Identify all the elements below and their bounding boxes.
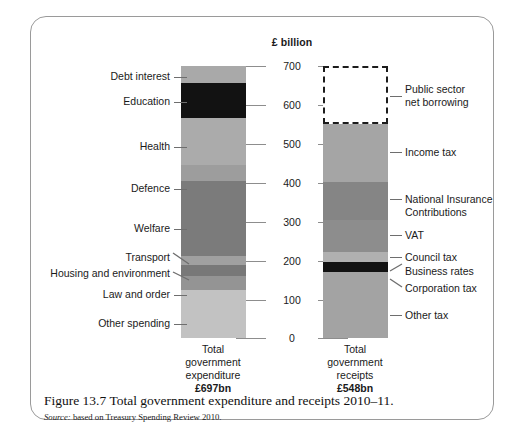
leader-health bbox=[174, 147, 187, 148]
leader-national-insurance-contributions bbox=[390, 199, 402, 200]
segment-vat[interactable] bbox=[323, 220, 388, 252]
leader-other-tax bbox=[390, 315, 402, 316]
label-line-1: National Insurance bbox=[405, 193, 493, 206]
footer-line-1: Total bbox=[153, 343, 273, 356]
segment-law-and-order[interactable] bbox=[181, 276, 246, 290]
leader-law-and-order bbox=[174, 295, 187, 296]
footer-line-3: expenditure bbox=[153, 369, 273, 382]
segment-council-tax[interactable] bbox=[323, 252, 388, 262]
figure-source: Source: based on Treasury Spending Revie… bbox=[44, 412, 464, 422]
label-line-1: Public sector bbox=[405, 83, 469, 96]
label-welfare: Welfare bbox=[36, 222, 170, 235]
label-defence: Defence bbox=[36, 182, 170, 195]
segment-health[interactable] bbox=[181, 118, 246, 165]
leader-business-rates bbox=[389, 262, 403, 275]
segment-education[interactable] bbox=[181, 83, 246, 118]
footer-line-1: Total bbox=[295, 343, 415, 356]
label-national-insurance-contributions: National Insurance Contributions bbox=[405, 193, 493, 218]
leader-defence bbox=[174, 189, 187, 190]
label-health: Health bbox=[36, 140, 170, 153]
segment-other-tax[interactable] bbox=[323, 289, 388, 338]
label-council-tax: Council tax bbox=[405, 251, 457, 264]
axis-tick-label: 200 bbox=[270, 254, 314, 268]
leader-income-tax bbox=[390, 152, 402, 153]
leader-housing-and-environment bbox=[172, 268, 190, 282]
source-label: Source: bbox=[44, 412, 71, 422]
label-corporation-tax: Corporation tax bbox=[405, 282, 477, 295]
segment-transport[interactable] bbox=[181, 256, 246, 265]
source-text: based on Treasury Spending Review 2010. bbox=[71, 412, 222, 422]
axis-tick-label: 400 bbox=[270, 176, 314, 190]
leader-education bbox=[174, 102, 187, 103]
segment-defence[interactable] bbox=[181, 165, 246, 181]
figure-caption: Figure 13.7 Total government expenditure… bbox=[44, 393, 464, 409]
label-housing-and-environment: Housing and environment bbox=[16, 267, 170, 280]
label-debt-interest: Debt interest bbox=[36, 70, 170, 83]
leader-vat bbox=[390, 235, 402, 236]
footer-line-3: receipts bbox=[295, 369, 415, 382]
label-public-sector-net-borrowing: Public sector net borrowing bbox=[405, 83, 469, 108]
leader-transport bbox=[172, 250, 190, 266]
axis-tick-label: 700 bbox=[270, 59, 314, 73]
label-line-2: net borrowing bbox=[405, 96, 469, 109]
leader-welfare bbox=[174, 229, 187, 230]
axis-tick-label: 600 bbox=[270, 98, 314, 112]
axis-tick-label: 300 bbox=[270, 215, 314, 229]
leader-corporation-tax bbox=[389, 277, 403, 291]
label-business-rates: Business rates bbox=[405, 265, 474, 278]
segment-public-sector-net-borrowing[interactable] bbox=[323, 66, 388, 124]
chart-plot-area: £ billion 700 600 500 400 300 200 100 0 bbox=[0, 0, 532, 446]
footer-total-government-expenditure: Total government expenditure £697bn bbox=[153, 343, 273, 395]
tick-dash-left bbox=[236, 338, 266, 339]
label-transport: Transport bbox=[36, 251, 170, 264]
label-other-tax: Other tax bbox=[405, 309, 448, 322]
label-vat: VAT bbox=[405, 229, 424, 242]
segment-housing-and-environment[interactable] bbox=[181, 265, 246, 276]
leader-other-spending bbox=[174, 324, 187, 325]
segment-other-spending[interactable] bbox=[181, 290, 246, 338]
leader-council-tax bbox=[390, 257, 402, 258]
leader-debt-interest bbox=[174, 77, 187, 78]
segment-business-rates[interactable] bbox=[323, 262, 388, 272]
segment-debt-interest[interactable] bbox=[181, 66, 246, 83]
segment-national-insurance-contributions[interactable] bbox=[323, 182, 388, 220]
leader-public-sector-net-borrowing bbox=[390, 96, 402, 97]
label-income-tax: Income tax bbox=[405, 146, 456, 159]
label-line-2: Contributions bbox=[405, 206, 493, 219]
segment-welfare[interactable] bbox=[181, 181, 246, 256]
footer-total-government-receipts: Total government receipts £548bn bbox=[295, 343, 415, 395]
y-axis-title: £ billion bbox=[252, 36, 332, 48]
footer-line-2: government bbox=[295, 356, 415, 369]
segment-corporation-tax[interactable] bbox=[323, 272, 388, 289]
footer-line-2: government bbox=[153, 356, 273, 369]
label-law-and-order: Law and order bbox=[36, 288, 170, 301]
label-other-spending: Other spending bbox=[36, 317, 170, 330]
axis-tick-label: 500 bbox=[270, 137, 314, 151]
tick-dash-right bbox=[318, 338, 348, 339]
label-education: Education bbox=[36, 95, 170, 108]
segment-income-tax[interactable] bbox=[323, 124, 388, 182]
axis-tick-label: 100 bbox=[270, 293, 314, 307]
